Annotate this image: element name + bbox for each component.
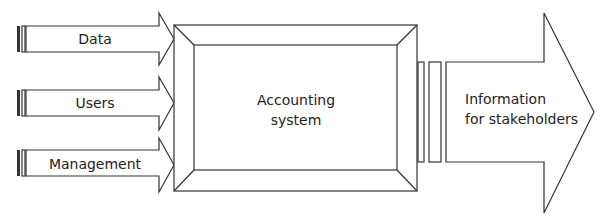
system-label-line1: Accounting bbox=[257, 92, 335, 108]
tail-bar bbox=[429, 62, 441, 162]
tail-bar bbox=[418, 62, 424, 162]
system-label-line2: system bbox=[271, 112, 322, 128]
input-label-users: Users bbox=[75, 95, 114, 111]
output-label-line2: for stakeholders bbox=[465, 111, 578, 127]
tail-bar bbox=[17, 150, 20, 176]
input-label-management: Management bbox=[49, 156, 142, 172]
input-label-data: Data bbox=[78, 31, 111, 47]
tail-bar bbox=[22, 26, 25, 52]
tail-bar bbox=[22, 90, 25, 116]
accounting-system-box bbox=[174, 25, 417, 191]
output-label-line1: Information bbox=[465, 91, 546, 107]
tail-bar bbox=[17, 26, 20, 52]
tail-bar bbox=[22, 150, 25, 176]
accounting-system-diagram: Data Users Management Accounting system … bbox=[0, 0, 605, 223]
tail-bar bbox=[17, 90, 20, 116]
